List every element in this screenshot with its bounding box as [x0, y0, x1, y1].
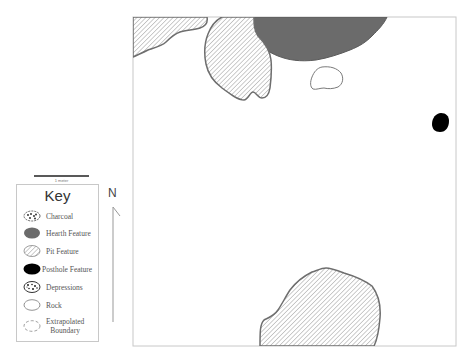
legend-box: Key Charcoal Hearth Feature Pit Feature — [16, 184, 99, 342]
legend-item-charcoal: Charcoal — [23, 209, 73, 223]
legend-item-rock: Rock — [23, 298, 62, 312]
legend-label: Rock — [46, 301, 62, 310]
legend-label: Depressions — [46, 283, 83, 292]
pit-hatch-swatch-icon — [23, 245, 41, 257]
legend-label: Extrapolated Boundary — [46, 317, 84, 335]
dashed-boundary-swatch-icon — [23, 320, 41, 332]
legend-label-line1: Extrapolated — [46, 317, 84, 326]
charcoal-swatch-icon — [23, 210, 41, 222]
hearth-swatch-icon — [23, 227, 41, 239]
legend-item-hearth: Hearth Feature — [23, 226, 91, 240]
legend-label: Charcoal — [46, 212, 73, 221]
north-label: N — [108, 186, 117, 200]
north-arrow-icon — [113, 207, 120, 322]
legend-label-line2: Boundary — [50, 326, 80, 335]
scale-label: 1 meter — [34, 178, 89, 183]
legend-item-posthole: Posthole Feature — [23, 262, 92, 276]
depressions-swatch-icon — [23, 281, 41, 293]
legend-label: Hearth Feature — [46, 229, 91, 238]
legend-item-depressions: Depressions — [23, 280, 83, 294]
legend-title: Key — [17, 187, 98, 204]
posthole-swatch-icon — [23, 263, 41, 275]
rock-swatch-icon — [23, 299, 41, 311]
legend-item-extrapolated: Extrapolated Boundary — [23, 315, 84, 337]
legend-label: Pit Feature — [46, 247, 79, 256]
legend-item-pit: Pit Feature — [23, 244, 79, 258]
legend-label: Posthole Feature — [42, 265, 92, 274]
